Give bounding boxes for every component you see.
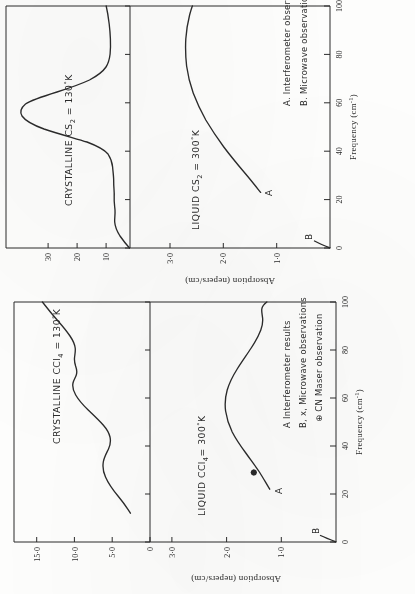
cs2-liquid-legend: A.Interferometer observations B.Microwav… — [282, 0, 309, 106]
cs2-crystalline-xticks — [125, 6, 130, 248]
cs2-crystalline-curve — [21, 6, 130, 248]
ytick-label: 1·0 — [277, 547, 286, 558]
ccl4-crystalline-xticks — [145, 302, 150, 542]
ccl4-xaxis-label: Frequency (cm-1) — [353, 389, 365, 455]
cs2-crystalline-yticks — [48, 243, 106, 248]
cs2-liquid-label-B: B — [304, 234, 314, 240]
legend-item: B.Microwave observations — [299, 0, 309, 106]
ccl4-crystalline-title: CRYSTALLINE CCl4 = 130°K — [51, 308, 65, 444]
ccl4-crystalline-yticks — [37, 537, 150, 542]
ccl4-liquid-title: LIQUID CCl4= 300°K — [196, 415, 210, 516]
title-main: CRYSTALLINE CS — [63, 123, 74, 206]
svg-text:Absorption (nepers/cm): Absorption (nepers/cm) — [191, 574, 281, 584]
ytick-label: 10 — [102, 253, 111, 261]
ytick-label: 2·0 — [219, 253, 228, 264]
figure-cs2: 10 20 30 — [0, 0, 415, 292]
svg-text:Frequency (cm-1): Frequency (cm-1) — [353, 389, 365, 455]
title-unit: K — [63, 74, 74, 81]
ccl4-yaxis-label: Absorption (nepers/cm) — [191, 574, 281, 584]
title-main: LIQUID CS — [190, 179, 201, 230]
cs2-liquid-title: LIQUID CS2 = 300°K — [190, 129, 204, 230]
ccl4-liquid-yticks — [172, 537, 281, 542]
title-degree: ° — [51, 315, 59, 319]
ytick-label: 5·0 — [108, 547, 117, 558]
cs2-crystalline-yticklabels: 10 20 30 — [44, 253, 111, 261]
cn-maser-point-marker — [251, 469, 257, 475]
ccl4-liquid-label-A: A — [274, 487, 284, 494]
cs2-liquid-label-A: A — [264, 189, 274, 196]
xtick-label: 40 — [335, 147, 344, 155]
panel-cs2-crystalline: 10 20 30 — [6, 6, 130, 261]
cs2-liquid-xticks — [324, 6, 330, 248]
legend-marker: B. — [299, 97, 309, 106]
title-tail: = 130 — [51, 319, 62, 353]
xtick-label: 100 — [335, 0, 344, 12]
legend-item: AInterferometer results — [282, 320, 292, 428]
legend-item: A.Interferometer observations — [282, 0, 292, 106]
figure-ccl4: 0 5·0 10·0 15·0 — [0, 294, 415, 594]
cs2-liquid-curve-B — [315, 241, 331, 248]
ytick-label: 2·0 — [223, 547, 232, 558]
ytick-label: 3·0 — [168, 547, 177, 558]
panel-ccl4-liquid: 1·0 2·0 3·0 0 20 — [150, 296, 364, 558]
svg-text:CRYSTALLINE CS2 = 130°K: CRYSTALLINE CS2 = 130°K — [63, 74, 77, 206]
title-tail: = 300 — [196, 426, 207, 457]
legend-marker: B, x, — [298, 408, 308, 428]
cs2-liquid-yticklabels: 1·0 2·0 3·0 — [166, 253, 282, 264]
ytick-label: 15·0 — [33, 547, 42, 562]
title-unit: K — [190, 129, 201, 136]
title-main: CRYSTALLINE CCl — [51, 358, 62, 444]
legend-text: Interferometer results — [282, 320, 292, 419]
xtick-label: 100 — [341, 296, 350, 308]
xtick-label: 80 — [341, 346, 350, 354]
ccl4-liquid-xticklabels: 0 20 40 60 80 100 — [341, 296, 350, 544]
ytick-label: 20 — [73, 253, 82, 261]
legend-marker: ⊕ — [314, 415, 324, 422]
cs2-yaxis-label: Absorption (nepers/cm) — [185, 276, 275, 286]
xtick-label: 0 — [335, 246, 344, 250]
ccl4-liquid-yticklabels: 1·0 2·0 3·0 — [168, 547, 286, 558]
xtick-label: 60 — [335, 99, 344, 107]
legend-text: CN Maser observation — [314, 313, 324, 411]
xtick-label: 80 — [335, 50, 344, 58]
xtick-label: 40 — [341, 442, 350, 450]
title-unit: K — [51, 308, 62, 315]
ccl4-liquid-curve-B — [321, 536, 337, 543]
legend-text: Microwave observations — [299, 0, 309, 94]
xaxis-label-exponent: -1 — [353, 392, 360, 398]
ccl4-crystalline-yticklabels: 0 5·0 10·0 15·0 — [33, 547, 155, 562]
title-degree: ° — [196, 422, 204, 426]
title-tail: = 300 — [190, 140, 201, 174]
svg-text:CRYSTALLINE CCl4 = 130°K: CRYSTALLINE CCl4 = 130°K — [51, 308, 65, 444]
xaxis-label-exponent: -1 — [347, 97, 354, 103]
panel-ccl4-crystalline: 0 5·0 10·0 15·0 — [14, 302, 155, 562]
ytick-label: 1·0 — [273, 253, 282, 264]
title-subscript: 4 — [57, 353, 65, 358]
ccl4-liquid-xticks — [330, 302, 336, 542]
cs2-liquid-xticklabels: 0 20 40 60 80 100 — [335, 0, 344, 250]
ytick-label: 10·0 — [71, 547, 80, 562]
title-subscript: 2 — [196, 174, 204, 179]
xaxis-label-text: Frequency (cm — [354, 398, 364, 455]
legend-text: Microwave observations — [298, 297, 308, 405]
xaxis-label-text: Frequency (cm — [348, 103, 358, 160]
title-degree: ° — [63, 81, 71, 85]
xtick-label: 20 — [335, 196, 344, 204]
legend-text: Interferometer observations — [282, 0, 292, 94]
title-tail: = 130 — [63, 85, 74, 119]
title-degree: ° — [190, 136, 198, 140]
xtick-label: 20 — [341, 490, 350, 498]
svg-text:Frequency (cm-1): Frequency (cm-1) — [347, 94, 359, 160]
ytick-label: 3·0 — [166, 253, 175, 264]
ccl4-liquid-curve-A — [225, 302, 270, 489]
title-main: LIQUID CCl — [196, 461, 207, 516]
cs2-liquid-yticks — [170, 243, 277, 248]
legend-item: B, x,Microwave observations — [298, 297, 308, 428]
panel-cs2-liquid: 1·0 2·0 3·0 0 20 — [130, 0, 358, 264]
ytick-label: 0 — [146, 547, 155, 551]
svg-text:LIQUID CS2 = 300°K: LIQUID CS2 = 300°K — [190, 129, 204, 230]
legend-item: ⊕CN Maser observation — [314, 313, 324, 422]
title-subscript: 4 — [202, 456, 210, 461]
figure-cs2-svg: 10 20 30 — [0, 0, 415, 292]
xtick-label: 60 — [341, 394, 350, 402]
